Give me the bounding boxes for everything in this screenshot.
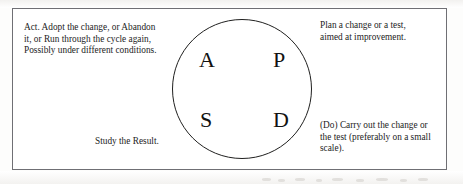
cycle-letter-study: S (200, 109, 213, 131)
scan-artifact (400, 179, 407, 182)
scan-artifact (278, 179, 285, 182)
scan-artifact (316, 179, 322, 182)
cycle-letter-do: D (273, 109, 289, 131)
scan-artifact (418, 178, 428, 181)
pdsa-cycle-circle (172, 19, 312, 159)
scan-artifact (262, 178, 271, 181)
scan-artifact (332, 178, 343, 181)
annotation-do: (Do) Carry out the change or the test (p… (320, 120, 446, 155)
scan-artifact (376, 178, 388, 181)
scan-artifact (356, 179, 364, 182)
annotation-act: Act. Adopt the change, or Abandon it, or… (24, 22, 176, 57)
annotation-plan: Plan a change or a test, aimed at improv… (320, 20, 444, 43)
scan-shading-top (0, 0, 463, 8)
annotation-study: Study the Result. (95, 136, 185, 148)
scan-artifact (295, 178, 305, 181)
scan-shading-bottom (0, 171, 463, 184)
cycle-letter-act: A (199, 49, 215, 71)
cycle-letter-plan: P (273, 49, 286, 71)
pdsa-diagram-canvas: A P S D Act. Adopt the change, or Abando… (0, 0, 463, 184)
